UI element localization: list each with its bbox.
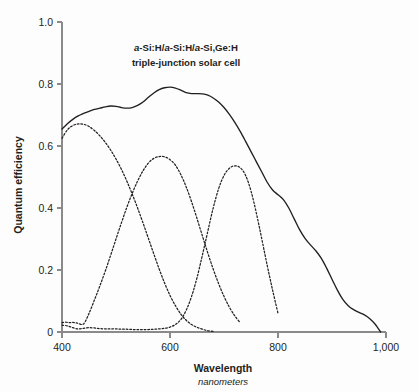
y-tick-label: 0 bbox=[47, 326, 53, 338]
data-series-group bbox=[62, 87, 381, 332]
y-tick-label: 1.0 bbox=[38, 16, 53, 28]
series-curve-middle-cell bbox=[62, 156, 240, 324]
y-tick-labels: 00.20.40.60.81.0 bbox=[38, 16, 53, 338]
y-axis-ticks bbox=[57, 22, 62, 332]
y-tick-label: 0.6 bbox=[38, 140, 53, 152]
chart-title-line-1: a-Si:H/a-Si:H/a-Si,Ge:H bbox=[134, 42, 238, 53]
quantum-efficiency-chart: 00.20.40.60.81.0 4006008001,000 Waveleng… bbox=[0, 0, 419, 392]
x-axis-title: Wavelength bbox=[194, 362, 253, 374]
y-tick-label: 0.4 bbox=[38, 202, 53, 214]
x-tick-labels: 4006008001,000 bbox=[53, 341, 399, 353]
series-curve-bottom-cell bbox=[62, 166, 278, 330]
y-tick-label: 0.2 bbox=[38, 264, 53, 276]
x-axis-ticks bbox=[62, 332, 386, 338]
chart-figure: 00.20.40.60.81.0 4006008001,000 Waveleng… bbox=[0, 0, 419, 392]
x-tick-label: 600 bbox=[161, 341, 179, 353]
x-tick-label: 400 bbox=[53, 341, 71, 353]
chart-title-line-2: triple-junction solar cell bbox=[132, 57, 240, 68]
y-axis-title: Quantum efficiency bbox=[12, 136, 24, 234]
y-tick-label: 0.8 bbox=[38, 78, 53, 90]
x-axis-subtitle: nanometers bbox=[198, 376, 248, 387]
series-curve-total bbox=[62, 87, 381, 332]
x-tick-label: 1,000 bbox=[373, 341, 399, 353]
x-tick-label: 800 bbox=[269, 341, 287, 353]
